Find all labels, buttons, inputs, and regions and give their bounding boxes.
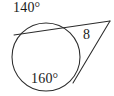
segment-length-label: 8 xyxy=(83,28,90,42)
arc-label-bottom: 160° xyxy=(31,72,58,86)
tangent-line xyxy=(73,21,110,83)
geometry-figure: 140° 160° 8 xyxy=(0,0,114,96)
arc-label-top: 140° xyxy=(13,1,40,15)
